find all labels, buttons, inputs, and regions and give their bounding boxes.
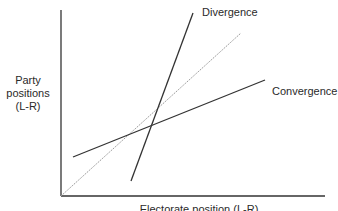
convergence-line	[73, 80, 265, 157]
convergence-label: Convergence	[272, 85, 337, 98]
x-axis-label: Electorate position (L-R)	[0, 203, 338, 211]
divergence-label: Divergence	[202, 6, 258, 19]
y-axis-label-line3: (L-R)	[2, 100, 54, 113]
divergence-line	[131, 13, 193, 181]
reference-45-line	[61, 33, 241, 196]
y-axis-label: Party positions (L-R)	[2, 74, 54, 113]
y-axis-label-line2: positions	[2, 87, 54, 100]
y-axis-label-line1: Party	[2, 74, 54, 87]
